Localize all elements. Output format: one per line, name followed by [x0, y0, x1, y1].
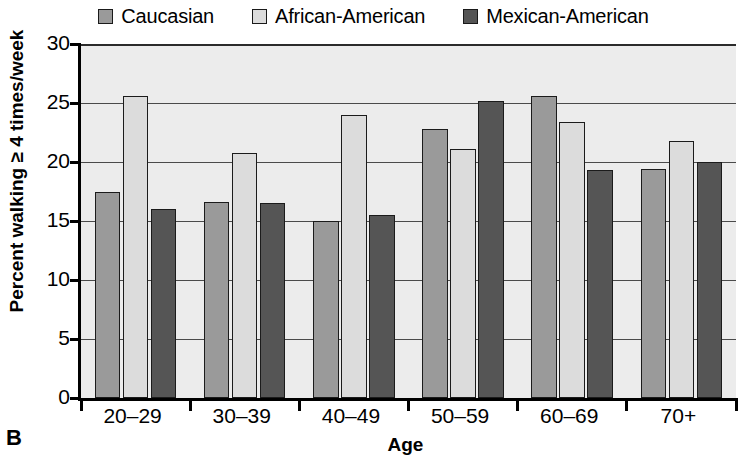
legend-swatch-icon — [98, 9, 113, 24]
bar — [204, 202, 230, 398]
plot-area — [78, 44, 736, 401]
bar — [641, 169, 667, 398]
bar-group — [190, 44, 299, 398]
x-axis-title: Age — [78, 434, 733, 456]
bar — [478, 101, 504, 398]
x-axis-tick-labels: 20–2930–3940–4950–5960–6970+ — [78, 404, 733, 430]
bar — [697, 162, 723, 398]
bar — [341, 115, 367, 398]
bar — [260, 203, 286, 398]
bar — [151, 209, 177, 398]
y-axis-tick — [70, 220, 81, 223]
bar — [559, 122, 585, 398]
x-axis-tick-label: 20–29 — [103, 404, 161, 428]
bar — [669, 141, 695, 398]
bar — [450, 149, 476, 398]
x-axis-tick-label: 50–59 — [431, 404, 489, 428]
panel-label: B — [6, 425, 22, 451]
x-axis-tick-label: 30–39 — [213, 404, 271, 428]
bar — [123, 96, 149, 398]
bar — [95, 192, 121, 399]
legend-item-african-american: African-American — [252, 5, 425, 28]
y-axis-tick-label: 25 — [34, 90, 70, 114]
y-axis-tick-label: 15 — [34, 208, 70, 232]
y-axis-tick — [70, 338, 81, 341]
bar-group — [81, 44, 190, 398]
x-axis-tick-label: 70+ — [661, 404, 697, 428]
bar-series-container — [81, 44, 736, 398]
legend-item-mexican-american: Mexican-American — [463, 5, 648, 28]
bar — [313, 221, 339, 398]
bar-group — [409, 44, 518, 398]
legend-label: Mexican-American — [486, 5, 648, 28]
x-axis-tick-label: 60–69 — [540, 404, 598, 428]
x-axis-tick — [735, 398, 738, 411]
y-axis-tick — [70, 279, 81, 282]
bar-group — [627, 44, 736, 398]
y-axis-tick-label: 30 — [34, 31, 70, 55]
y-axis-tick-label: 0 — [34, 385, 70, 409]
legend-item-caucasian: Caucasian — [98, 5, 214, 28]
legend-swatch-icon — [463, 9, 478, 24]
y-axis-title: Percent walking ≥ 4 times/week — [6, 6, 28, 336]
bar — [531, 96, 557, 398]
legend-label: Caucasian — [121, 5, 214, 28]
bar-group — [518, 44, 627, 398]
y-axis-tick — [70, 161, 81, 164]
x-axis-tick-label: 40–49 — [322, 404, 380, 428]
legend-label: African-American — [275, 5, 425, 28]
y-axis-tick — [70, 102, 81, 105]
bar-group — [299, 44, 408, 398]
bar — [369, 215, 395, 398]
bar — [232, 153, 258, 398]
bar — [587, 170, 613, 398]
y-axis-tick-label: 20 — [34, 149, 70, 173]
chart-legend: Caucasian African-American Mexican-Ameri… — [0, 0, 747, 32]
y-axis-tick-label: 10 — [34, 267, 70, 291]
legend-swatch-icon — [252, 9, 267, 24]
y-axis-tick-label: 5 — [34, 326, 70, 350]
bar — [422, 129, 448, 398]
y-axis-tick — [70, 43, 81, 46]
